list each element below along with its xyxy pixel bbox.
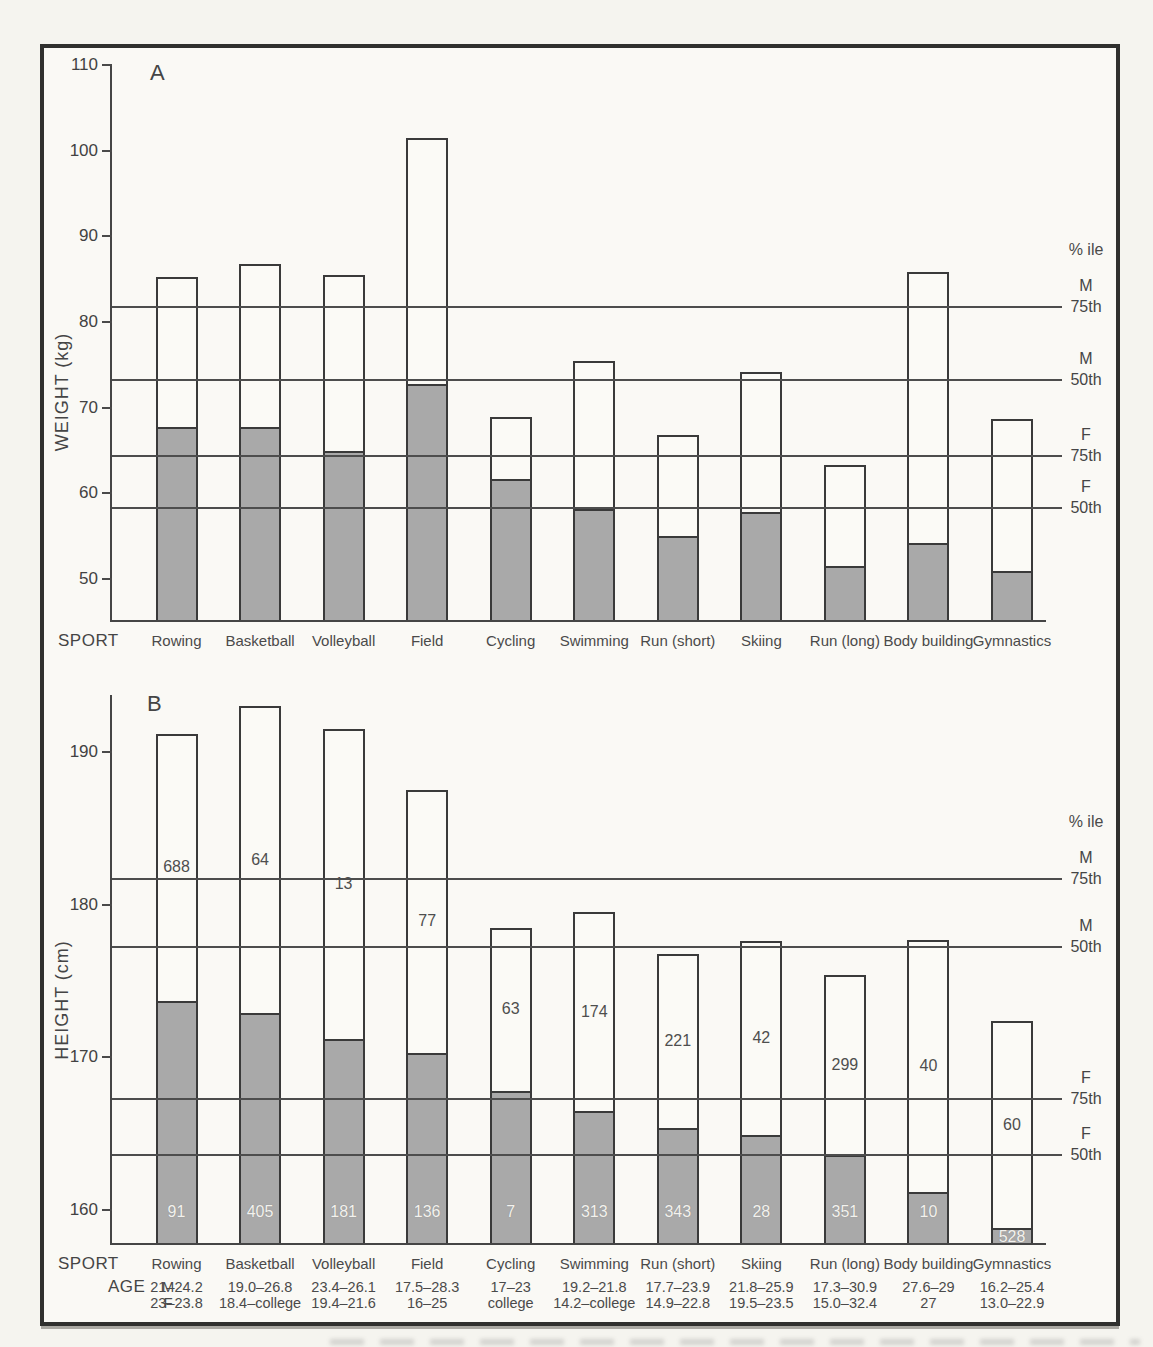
ref-label-group-a-2: F	[1046, 425, 1126, 445]
count-male-skiing: 42	[721, 1028, 801, 1048]
ref-label-group-a-3: F	[1046, 477, 1126, 497]
ref-label-percentile-a-3: 50th	[1046, 498, 1126, 518]
height-cm-axis-label: HEIGHT (cm)	[50, 890, 74, 1110]
y-tick-b-170	[102, 1056, 112, 1058]
count-male-field: 77	[387, 911, 467, 931]
count-female-swimming: 313	[554, 1202, 634, 1222]
bar-female-gymnastics-a	[991, 571, 1033, 622]
count-male-rowing: 688	[137, 857, 217, 877]
y-tick-a-110	[102, 64, 112, 66]
count-male-swimming: 174	[554, 1002, 634, 1022]
ref-label-percentile-a-1: 50th	[1046, 370, 1126, 390]
sport-label-b-gymnastics: Gymnastics	[952, 1254, 1072, 1274]
count-male-run-short: 221	[638, 1031, 718, 1051]
bar-female-body-building-a	[907, 543, 949, 622]
bar-female-run-long-a	[824, 566, 866, 622]
weight-kg-axis-label: WEIGHT (kg)	[50, 282, 74, 502]
y-tick-b-180	[102, 904, 112, 906]
bar-female-volleyball-a	[323, 451, 365, 622]
y-tick-b-190	[102, 751, 112, 753]
count-male-cycling: 63	[471, 999, 551, 1019]
y-tick-label-b-190: 190	[50, 742, 98, 762]
y-tick-label-a-90: 90	[50, 226, 98, 246]
charts-layer: A5060708090100110WEIGHT (kg)% ileM75thM5…	[0, 0, 1153, 1347]
count-female-basketball: 405	[220, 1202, 300, 1222]
figure-page: A5060708090100110WEIGHT (kg)% ileM75thM5…	[0, 0, 1153, 1347]
ref-label-group-a-1: M	[1046, 349, 1126, 369]
y-tick-label-b-160: 160	[50, 1200, 98, 1220]
y-tick-a-90	[102, 235, 112, 237]
ref-label-percentile-b-2: 75th	[1046, 1089, 1126, 1109]
y-axis-line-a	[110, 65, 112, 622]
sport-label-a-gymnastics: Gymnastics	[952, 631, 1072, 651]
ref-line-a-m-75th	[112, 306, 1062, 308]
ref-label-percentile-b-0: 75th	[1046, 869, 1126, 889]
bar-female-cycling-a	[490, 479, 532, 622]
y-tick-a-50	[102, 578, 112, 580]
ref-label-group-b-2: F	[1046, 1068, 1126, 1088]
ref-label-percentile-b-3: 50th	[1046, 1145, 1126, 1165]
count-male-run-long: 299	[805, 1055, 885, 1075]
ref-line-b-m-75th	[112, 878, 1062, 880]
panel-b-label: B	[147, 691, 162, 717]
bar-female-swimming-a	[573, 509, 615, 622]
y-tick-label-a-50: 50	[50, 569, 98, 589]
count-female-volleyball: 181	[304, 1202, 384, 1222]
ref-label-percentile-b-1: 50th	[1046, 937, 1126, 957]
ref-line-a-f-50th	[112, 507, 1062, 509]
x-axis-line-a	[112, 620, 1046, 622]
sport-axis-label-b: SPORT	[58, 1254, 119, 1274]
percentile-header-b: % ile	[1046, 812, 1126, 832]
y-axis-line-b	[110, 695, 112, 1245]
ref-label-group-a-0: M	[1046, 276, 1126, 296]
y-tick-a-60	[102, 492, 112, 494]
bar-female-skiing-a	[740, 512, 782, 622]
count-female-run-long: 351	[805, 1202, 885, 1222]
bar-female-run-short-b	[657, 1128, 699, 1245]
bar-female-swimming-b	[573, 1111, 615, 1245]
bar-female-run-long-b	[824, 1155, 866, 1245]
y-tick-label-a-100: 100	[50, 141, 98, 161]
ref-line-b-f-50th	[112, 1154, 1062, 1156]
y-tick-a-70	[102, 407, 112, 409]
percentile-header-a: % ile	[1046, 240, 1126, 260]
bar-female-skiing-b	[740, 1135, 782, 1245]
panel-a-label: A	[150, 60, 165, 86]
y-tick-a-80	[102, 321, 112, 323]
y-tick-label-a-110: 110	[50, 55, 98, 75]
age-female-gymnastics: 13.0–22.9	[952, 1293, 1072, 1313]
count-female-field: 136	[387, 1202, 467, 1222]
count-female-body-building: 10	[888, 1202, 968, 1222]
ref-label-percentile-a-0: 75th	[1046, 297, 1126, 317]
count-male-gymnastics: 60	[972, 1115, 1052, 1135]
y-tick-a-100	[102, 150, 112, 152]
ref-line-a-m-50th	[112, 379, 1062, 381]
ref-label-group-b-0: M	[1046, 848, 1126, 868]
bar-female-field-a	[406, 384, 448, 622]
ref-line-b-f-75th	[112, 1098, 1062, 1100]
count-female-rowing: 91	[137, 1202, 217, 1222]
ref-line-b-m-50th	[112, 946, 1062, 948]
sport-axis-label-a: SPORT	[58, 631, 119, 651]
count-female-skiing: 28	[721, 1202, 801, 1222]
count-female-run-short: 343	[638, 1202, 718, 1222]
ref-label-group-b-1: M	[1046, 916, 1126, 936]
count-male-body-building: 40	[888, 1056, 968, 1076]
ref-label-group-b-3: F	[1046, 1124, 1126, 1144]
count-female-cycling: 7	[471, 1202, 551, 1222]
ref-label-percentile-a-2: 75th	[1046, 446, 1126, 466]
ref-line-a-f-75th	[112, 455, 1062, 457]
count-male-basketball: 64	[220, 850, 300, 870]
bar-female-run-short-a	[657, 536, 699, 622]
x-axis-line-b	[112, 1243, 1046, 1245]
count-male-volleyball: 13	[304, 874, 384, 894]
cut-off-caption	[330, 1339, 1140, 1345]
y-tick-b-160	[102, 1209, 112, 1211]
count-female-gymnastics: 528	[972, 1227, 1052, 1247]
